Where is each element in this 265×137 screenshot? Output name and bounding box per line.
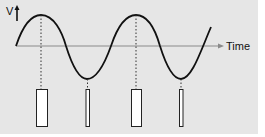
pulse-bar-trough-2 [180,90,184,127]
time-axis-arrow-icon [218,44,224,49]
guide-lines [41,15,181,89]
sine-wave-diagram: V Time [0,0,265,137]
pulse-bar-trough-1 [86,90,90,127]
sine-wave [16,15,211,79]
pulse-bar-peak-1 [37,90,48,127]
x-axis-label: Time [226,40,250,52]
pulse-bar-peak-2 [132,90,142,127]
voltage-axis-arrow-icon [15,5,20,10]
y-axis-label: V [6,5,14,17]
